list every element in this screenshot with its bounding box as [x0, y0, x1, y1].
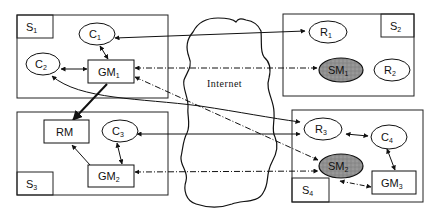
- node-gm3: GM3: [372, 171, 416, 194]
- edge-c1-gm1: [100, 46, 108, 59]
- node-r3: R3: [304, 118, 342, 140]
- edge-gm1-sm2: [135, 77, 318, 160]
- svg-text:RM: RM: [56, 126, 73, 138]
- edge-sm2-gm3: [340, 181, 371, 187]
- edge-r3-c4: [346, 134, 368, 136]
- node-gm1: GM1: [88, 60, 134, 83]
- edge-c4-gm3: [387, 149, 395, 170]
- node-rm: RM: [44, 120, 89, 143]
- node-c2: C2: [26, 53, 60, 75]
- node-gm2: GM2: [88, 165, 134, 187]
- node-r1: R1: [309, 21, 347, 43]
- edge-c3-gm2: [117, 143, 122, 164]
- edge-gm2-rm: [72, 145, 90, 165]
- site-s2: S2: [283, 14, 414, 96]
- node-sm2: SM2: [319, 154, 363, 178]
- internet-label: Internet: [207, 78, 242, 89]
- site-s3-label: S3: [26, 178, 37, 191]
- node-r2: R2: [374, 59, 410, 81]
- edge-r1-c1: [115, 31, 305, 38]
- distributed-system-diagram: Internet S1 S2 S3 S4: [0, 0, 441, 213]
- site-s2-label: S2: [390, 20, 401, 33]
- node-c3: C3: [102, 120, 138, 142]
- internet-cloud: Internet: [181, 18, 277, 207]
- node-c4: C4: [371, 125, 407, 149]
- node-c1: C1: [79, 23, 115, 45]
- node-sm1: SM1: [319, 58, 363, 82]
- edge-gm2-sm2: [135, 171, 318, 172]
- site-s4-label: S4: [302, 184, 313, 197]
- site-s1-label: S1: [26, 21, 37, 34]
